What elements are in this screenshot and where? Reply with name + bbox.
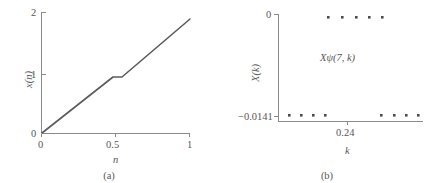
figure-container: x(n) 2 1 0 0 0.5 1 n (a) <box>0 0 436 183</box>
panel-b-caption: (b) <box>218 170 436 181</box>
panel-a-curve <box>42 19 190 133</box>
panel-b-markers-top <box>327 16 384 19</box>
panel-b-ytick-label-min: −0.0141 <box>238 112 273 123</box>
panel-b-ytick-label-0: 0 <box>266 10 271 21</box>
panel-b-x-axis-label: k <box>345 146 350 157</box>
panel-a-ytick-label-1: 1 <box>31 70 36 81</box>
panel-b-xtick-label-024: 0.24 <box>336 128 354 139</box>
panel-b: X(k) 0 −0.0141 0.24 k Xψ(7, k) (b) <box>218 0 436 183</box>
panel-a-x-axis-label: n <box>113 155 118 166</box>
panel-b-annotation: Xψ(7, k) <box>320 53 355 64</box>
panel-a-xtick-label-1: 1 <box>187 140 192 151</box>
panel-a-plot <box>0 0 218 183</box>
panel-a-ytick-label-2: 2 <box>31 8 36 19</box>
panel-a-xtick-label-05: 0.5 <box>106 140 119 151</box>
panel-a-caption: (a) <box>0 170 218 181</box>
panel-a-xtick-label-0: 0 <box>38 140 43 151</box>
panel-a: x(n) 2 1 0 0 0.5 1 n (a) <box>0 0 218 183</box>
panel-b-markers-bottom-left <box>288 114 327 117</box>
panel-b-plot <box>218 0 436 183</box>
panel-a-ytick-label-0: 0 <box>31 129 36 140</box>
panel-b-y-axis-label: X(k) <box>251 64 262 82</box>
panel-b-markers-bottom-right <box>380 114 420 117</box>
panel-b-annotation-rest: (7, k) <box>333 52 355 63</box>
